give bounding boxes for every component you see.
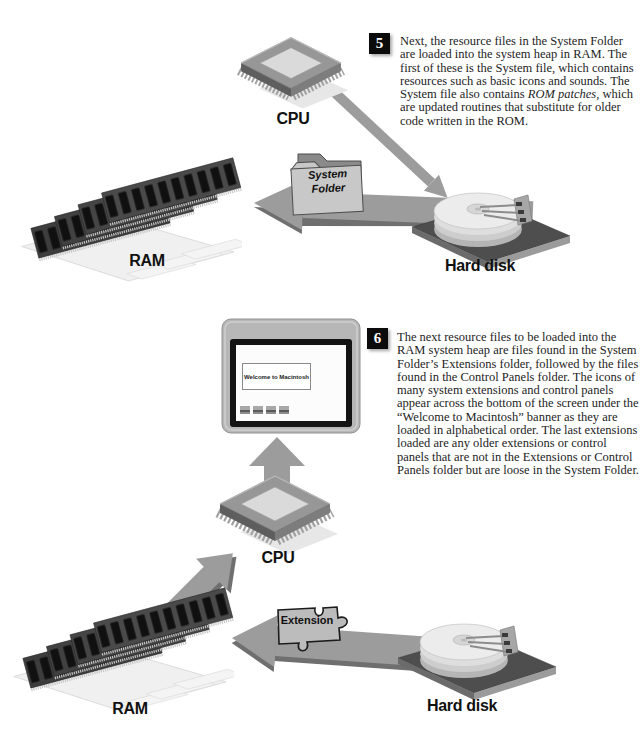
step-5-text-italic: ROM patches, <box>528 87 600 101</box>
cpu-label: CPU <box>243 549 313 567</box>
ram-icon <box>12 575 234 720</box>
step-5-text: Next, the resource files in the System F… <box>400 35 639 128</box>
step-6-text: The next resource files to be loaded int… <box>397 331 639 477</box>
extension-icon <box>266 406 276 414</box>
cpu-chip <box>232 32 350 116</box>
hard-disk-label: Hard disk <box>426 257 534 275</box>
hard-disk-icon <box>392 608 557 708</box>
screen-extension-icons <box>240 406 289 414</box>
extension-icon <box>279 406 289 414</box>
extension-icon <box>253 406 263 414</box>
ram-label: RAM <box>95 700 165 718</box>
cpu-label: CPU <box>258 110 328 128</box>
welcome-banner: Welcome to Macintosh <box>242 363 311 390</box>
ram-label: RAM <box>112 252 182 270</box>
hard-disk-label: Hard disk <box>408 697 516 715</box>
extension-puzzle-icon <box>275 598 355 658</box>
system-folder-label: System Folder <box>298 167 357 197</box>
step-6-badge: 6 <box>367 328 388 349</box>
extension-icon <box>240 406 250 414</box>
diagram-canvas: CPU System Folder <box>0 0 643 743</box>
extension-label: Extension <box>278 614 336 626</box>
step-5-badge: 5 <box>369 33 390 54</box>
